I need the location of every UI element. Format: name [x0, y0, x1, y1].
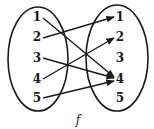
codomain-element-2: 2: [116, 30, 124, 44]
codomain-element-4: 4: [116, 72, 124, 86]
domain-element-4: 4: [33, 72, 41, 86]
function-label: f: [75, 113, 83, 127]
codomain-element-3: 3: [116, 51, 124, 65]
codomain-element-5: 5: [116, 91, 124, 105]
mapping-diagram: 1 2 3 4 5 1 2 3 4 5 f: [0, 0, 154, 129]
domain-element-3: 3: [33, 51, 41, 65]
arrow-5-to-4: [43, 81, 114, 98]
domain-element-1: 1: [33, 10, 41, 24]
domain-element-5: 5: [33, 91, 41, 105]
arrow-4-to-2: [43, 38, 114, 79]
domain-element-2: 2: [33, 30, 41, 44]
codomain-element-1: 1: [116, 10, 124, 24]
